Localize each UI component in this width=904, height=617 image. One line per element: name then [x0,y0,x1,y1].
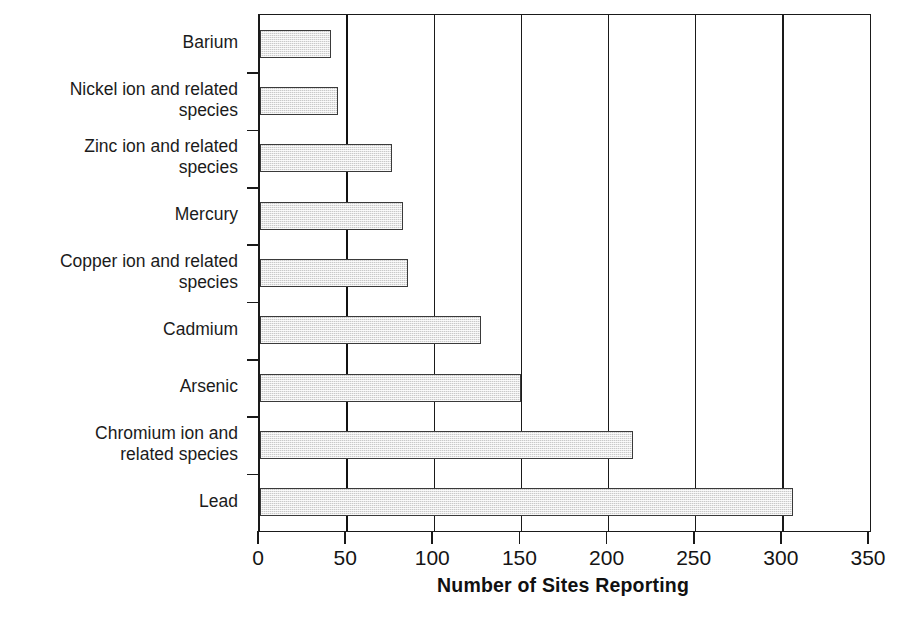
category-label: Mercury [0,204,238,225]
x-axis-tick-label: 50 [333,546,356,570]
x-axis-tick-label: 150 [502,546,537,570]
category-label: Arsenic [0,376,238,397]
x-axis-tick-200 [606,531,608,544]
bar-chart: BariumNickel ion and related speciesZinc… [0,0,904,617]
x-axis-tick-150 [519,531,521,544]
category-axis-tick [247,359,260,361]
x-axis-tick-label: 100 [415,546,450,570]
category-axis-tick [247,187,260,189]
bar [260,259,408,287]
category-axis-tick [247,244,260,246]
gridline-300 [782,15,784,531]
category-label: Copper ion and related species [0,251,238,293]
x-axis-tick-350 [867,531,869,544]
x-axis-tick-300 [780,531,782,544]
bar [260,202,403,230]
bar [260,488,793,516]
x-axis-tick-100 [431,531,433,544]
category-label: Barium [0,32,238,53]
x-axis-tick-label: 0 [252,546,264,570]
bar [260,316,481,344]
category-label: Nickel ion and related species [0,79,238,121]
x-axis-tick-label: 350 [850,546,885,570]
category-label: Chromium ion and related species [0,423,238,465]
category-axis-tick [247,416,260,418]
category-axis-tick [247,130,260,132]
gridline-250 [695,15,697,531]
plot-area [258,14,871,532]
category-axis-tick [247,72,260,74]
bar [260,87,338,115]
category-label: Cadmium [0,319,238,340]
category-axis-tick [247,474,260,476]
x-axis-tick-250 [693,531,695,544]
x-axis-tick-0 [257,531,259,544]
category-label: Zinc ion and related species [0,136,238,178]
bar [260,144,392,172]
x-axis-tick-50 [344,531,346,544]
category-label: Lead [0,491,238,512]
bar [260,30,331,58]
bar [260,374,521,402]
x-axis-tick-label: 200 [589,546,624,570]
x-axis-tick-labels: 050100150200250300350 [0,546,904,572]
x-axis-title: Number of Sites Reporting [258,574,868,597]
bar [260,431,633,459]
x-axis-ticks [258,531,870,545]
x-axis-tick-label: 250 [676,546,711,570]
x-axis-tick-label: 300 [763,546,798,570]
category-axis-labels: BariumNickel ion and related speciesZinc… [0,14,248,530]
category-axis-tick [247,302,260,304]
